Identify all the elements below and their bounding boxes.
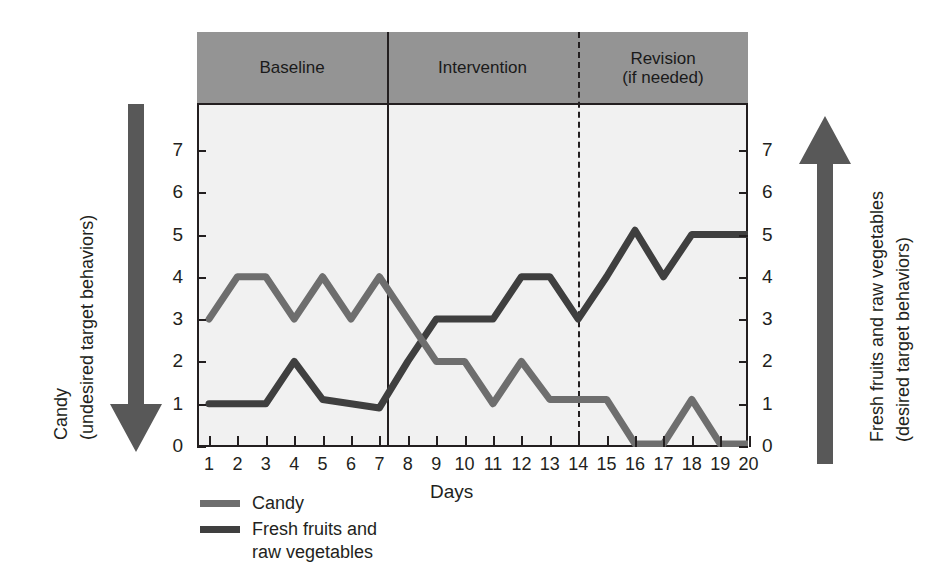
- x-tick: [720, 436, 722, 447]
- legend-swatch: [200, 500, 240, 507]
- x-tick: [209, 436, 211, 447]
- y-tick-right: [739, 361, 748, 363]
- y-tick-label-left: 1: [161, 393, 183, 415]
- y-tick-left: [197, 446, 206, 448]
- x-tick: [578, 436, 580, 447]
- x-tick: [294, 436, 296, 447]
- x-tick-label: 12: [508, 454, 534, 475]
- y-tick-right: [739, 192, 748, 194]
- right-axis-title: Fresh fruits and raw vegetables: [866, 191, 888, 442]
- x-tick-label: 15: [594, 454, 620, 475]
- x-tick-label: 3: [253, 454, 279, 475]
- left-axis-title: Candy: [50, 388, 72, 440]
- behavior-chart-figure: Candy (undesired target behaviors) Basel…: [0, 0, 938, 580]
- legend-item: Fresh fruits and raw vegetables: [200, 518, 377, 564]
- x-tick: [323, 436, 325, 447]
- x-tick-label: 11: [480, 454, 506, 475]
- left-axis-title-main: Candy: [51, 388, 71, 440]
- y-tick-label-right: 4: [762, 266, 784, 288]
- up-arrow-icon: [795, 104, 855, 464]
- y-tick-label-right: 6: [762, 181, 784, 203]
- x-tick: [493, 436, 495, 447]
- x-tick: [465, 436, 467, 447]
- y-tick-right: [739, 235, 748, 237]
- y-tick-right: [739, 150, 748, 152]
- y-tick-label-right: 3: [762, 308, 784, 330]
- x-tick-label: 1: [196, 454, 222, 475]
- x-tick-label: 19: [707, 454, 733, 475]
- x-tick: [408, 436, 410, 447]
- legend-swatch: [200, 526, 240, 533]
- x-tick-label: 7: [366, 454, 392, 475]
- y-tick-label-right: 7: [762, 139, 784, 161]
- left-axis-subtitle: (undesired target behaviors): [76, 215, 98, 440]
- y-tick-right: [739, 277, 748, 279]
- left-axis-subtitle-text: (undesired target behaviors): [77, 215, 97, 440]
- x-tick: [663, 436, 665, 447]
- y-tick-right: [739, 319, 748, 321]
- x-tick-label: 18: [679, 454, 705, 475]
- x-tick: [436, 436, 438, 447]
- y-tick-left: [197, 235, 206, 237]
- y-tick-label-left: 3: [161, 308, 183, 330]
- data-lines: [197, 32, 748, 447]
- x-tick: [379, 436, 381, 447]
- x-tick: [266, 436, 268, 447]
- x-tick-label: 6: [338, 454, 364, 475]
- x-tick-label: 2: [224, 454, 250, 475]
- x-tick: [607, 436, 609, 447]
- y-tick-left: [197, 404, 206, 406]
- x-tick-label: 20: [736, 454, 762, 475]
- x-axis-title: Days: [430, 481, 473, 503]
- right-axis-subtitle-text: (desired target behaviors): [893, 237, 913, 442]
- x-tick-label: 13: [537, 454, 563, 475]
- x-tick-label: 9: [423, 454, 449, 475]
- x-tick-label: 10: [452, 454, 478, 475]
- y-tick-left: [197, 192, 206, 194]
- x-tick-label: 16: [622, 454, 648, 475]
- x-tick: [237, 436, 239, 447]
- y-tick-left: [197, 319, 206, 321]
- x-tick: [521, 436, 523, 447]
- right-axis-title-main: Fresh fruits and raw vegetables: [867, 191, 887, 442]
- y-tick-label-left: 7: [161, 139, 183, 161]
- y-tick-label-right: 5: [762, 224, 784, 246]
- y-tick-right: [739, 404, 748, 406]
- y-tick-label-right: 2: [762, 350, 784, 372]
- y-tick-left: [197, 277, 206, 279]
- legend-label: Candy: [252, 492, 304, 515]
- y-tick-label-left: 2: [161, 350, 183, 372]
- x-tick-label: 14: [565, 454, 591, 475]
- down-arrow-icon: [106, 104, 166, 464]
- y-tick-label-right: 1: [762, 393, 784, 415]
- y-tick-left: [197, 361, 206, 363]
- x-tick: [635, 436, 637, 447]
- x-tick-label: 17: [650, 454, 676, 475]
- x-tick: [749, 436, 751, 447]
- x-tick-label: 8: [395, 454, 421, 475]
- x-tick: [550, 436, 552, 447]
- series-line-candy: [209, 277, 748, 444]
- x-tick-label: 4: [281, 454, 307, 475]
- x-tick: [351, 436, 353, 447]
- legend-label: Fresh fruits and raw vegetables: [252, 518, 377, 564]
- y-tick-label-left: 5: [161, 224, 183, 246]
- y-tick-left: [197, 150, 206, 152]
- y-tick-label-left: 0: [161, 435, 183, 457]
- y-tick-label-left: 6: [161, 181, 183, 203]
- right-axis-subtitle: (desired target behaviors): [892, 237, 914, 442]
- x-tick: [692, 436, 694, 447]
- legend-item: Candy: [200, 492, 377, 515]
- chart-legend: CandyFresh fruits and raw vegetables: [200, 492, 377, 567]
- x-tick-label: 5: [310, 454, 336, 475]
- y-tick-label-right: 0: [762, 435, 784, 457]
- y-tick-label-left: 4: [161, 266, 183, 288]
- y-tick-right: [739, 446, 748, 448]
